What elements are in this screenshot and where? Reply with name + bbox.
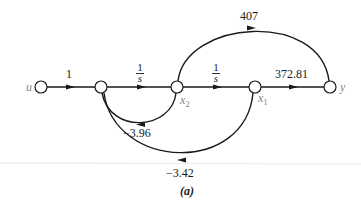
node-u [35,81,47,93]
branch-n2-to-x2 [107,85,171,90]
arrow-icon [177,158,186,163]
node-label-x1: x1 [257,91,268,107]
branch-x2-to-x1 [183,85,249,90]
figure-caption: (a) [180,184,194,198]
node-x2 [171,81,183,93]
branch-x2-to-n2 [102,93,176,127]
arrow-icon [247,26,256,31]
arrow-icon [213,85,222,90]
background-rule [0,163,361,164]
node-label-x2: x2 [179,93,190,109]
branch-u-to-n2 [47,85,95,90]
arrow-icon [137,85,146,90]
svg-text:s: s [138,72,142,84]
gain-x1-y: 372.81 [275,67,308,81]
gain-x2-x1: 1 s [212,61,220,84]
node-y [324,81,336,93]
node-label-y: y [339,80,346,94]
node-n2 [95,81,107,93]
gain-x2-y: 407 [240,9,258,23]
svg-text:s: s [214,72,218,84]
arrow-icon [66,85,75,90]
node-label-u: u [26,80,32,94]
branch-x1-to-y [261,85,324,90]
gain-n2-x2: 1 s [136,61,144,84]
gain-x2-n2: −3.96 [123,126,151,140]
signal-flow-graph: u x2 x1 y 1 1 s 1 s 372.81 407 −3.96 −3.… [0,0,361,209]
gain-u-n2: 1 [66,67,72,81]
gain-x1-n2: −3.42 [166,166,194,180]
arrow-icon [289,85,298,90]
